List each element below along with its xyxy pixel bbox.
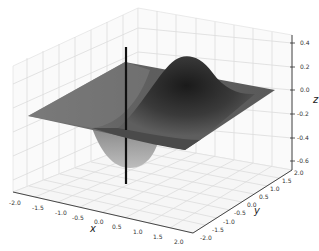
z-tick: -0.4 — [297, 134, 309, 141]
y-tick: 1.0 — [270, 185, 280, 192]
z-tick: -0.6 — [297, 157, 309, 164]
y-tick: 0.5 — [259, 193, 269, 200]
x-tick: 0.5 — [112, 223, 122, 230]
z-tick: -0.2 — [297, 110, 309, 117]
x-axis-label: x — [89, 223, 96, 234]
y-tick: 1.5 — [282, 177, 292, 184]
y-tick: -1.5 — [212, 226, 224, 233]
x-tick: -1.0 — [55, 209, 67, 216]
y-tick: 2.0 — [294, 169, 304, 176]
z-tick-labels: 0.4 0.2 0.0 -0.2 -0.4 -0.6 — [297, 39, 310, 164]
x-tick: -1.5 — [32, 204, 44, 211]
y-tick: -0.5 — [234, 209, 246, 216]
x-tick: 1.0 — [133, 228, 143, 235]
z-tick: 0.2 — [300, 63, 310, 70]
x-tick: -2.0 — [9, 199, 21, 206]
y-axis-label: y — [253, 205, 261, 216]
x-tick: -0.5 — [72, 214, 84, 221]
z-tick: 0.0 — [300, 86, 310, 93]
z-axis-label: z — [312, 94, 319, 105]
y-tick: -2.0 — [200, 234, 212, 241]
surface-plot: -2.0 -1.5 -1.0 -0.5 0.0 0.5 1.0 1.5 2.0 … — [0, 0, 319, 251]
x-tick: 2.0 — [174, 238, 184, 245]
x-tick: 1.5 — [153, 233, 163, 240]
y-tick: -1.0 — [223, 218, 235, 225]
z-tick: 0.4 — [300, 39, 310, 46]
